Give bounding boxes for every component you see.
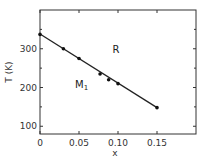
phase-diagram-chart: 00.050.100.15100200300xT (K)RM1 bbox=[0, 0, 204, 159]
data-point bbox=[107, 78, 111, 82]
fit-line bbox=[40, 34, 157, 108]
data-point bbox=[98, 72, 102, 76]
x-axis-label: x bbox=[112, 148, 118, 158]
region-label-r: R bbox=[113, 44, 120, 55]
y-axis-label: T (K) bbox=[4, 61, 14, 83]
y-tick-label: 100 bbox=[20, 121, 37, 131]
data-point bbox=[38, 33, 42, 37]
plot-frame bbox=[40, 10, 196, 134]
data-point bbox=[77, 57, 81, 61]
x-tick-label: 0.15 bbox=[147, 138, 167, 148]
data-point bbox=[62, 47, 66, 51]
y-tick-label: 300 bbox=[20, 44, 37, 54]
data-point bbox=[155, 106, 159, 110]
y-tick-label: 200 bbox=[20, 83, 37, 93]
x-tick-label: 0 bbox=[37, 138, 43, 148]
x-tick-label: 0.10 bbox=[108, 138, 128, 148]
x-tick-label: 0.05 bbox=[69, 138, 89, 148]
data-point bbox=[116, 82, 120, 86]
region-label-m: M1 bbox=[75, 79, 88, 92]
